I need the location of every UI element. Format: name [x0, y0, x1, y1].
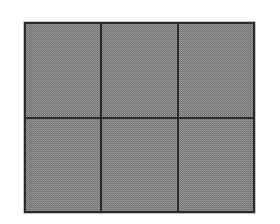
grid-cell-row2-col3: [179, 119, 253, 212]
grid-cell-row1-col1: [26, 24, 100, 117]
grid-figure: [24, 22, 255, 213]
grid-cell-row1-col3: [179, 24, 253, 117]
figure-canvas: [0, 0, 280, 224]
grid-cell-row1-col2: [102, 24, 176, 117]
grid-cell-row2-col1: [26, 119, 100, 212]
grid-cell-row2-col2: [102, 119, 176, 212]
